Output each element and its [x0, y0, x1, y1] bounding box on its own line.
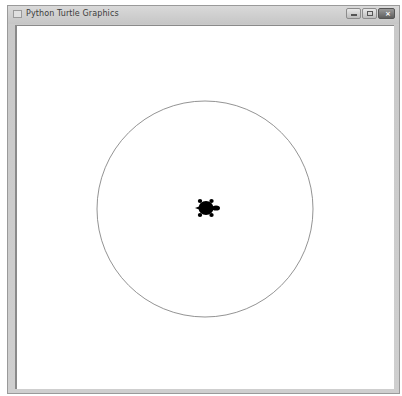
turtle-window: Python Turtle Graphics × [7, 5, 400, 394]
minimize-icon [351, 14, 357, 16]
minimize-button[interactable] [346, 8, 361, 19]
turtle-canvas-area[interactable] [15, 25, 394, 389]
window-controls: × [346, 8, 395, 19]
maximize-icon [367, 11, 373, 16]
app-icon [13, 10, 22, 18]
close-button[interactable]: × [378, 8, 395, 19]
maximize-button[interactable] [362, 8, 377, 19]
close-icon: × [385, 11, 391, 17]
window-title: Python Turtle Graphics [26, 9, 119, 18]
title-bar[interactable]: Python Turtle Graphics × [8, 6, 399, 24]
